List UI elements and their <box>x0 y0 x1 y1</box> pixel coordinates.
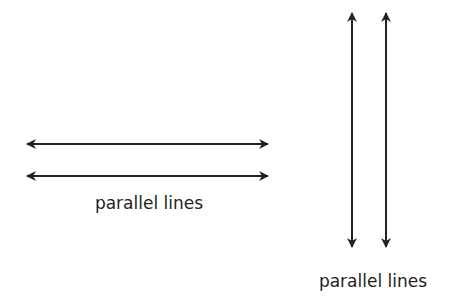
horizontal-parallel-lines <box>27 144 268 176</box>
parallel-lines-diagram <box>0 0 455 306</box>
vertical-parallel-lines <box>352 13 386 247</box>
vertical-lines-label: parallel lines <box>302 271 444 291</box>
horizontal-lines-label: parallel lines <box>72 193 226 213</box>
